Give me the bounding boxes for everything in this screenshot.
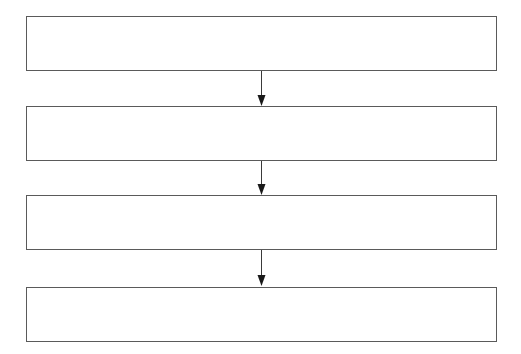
- arrow-down-icon: [256, 71, 267, 107]
- flow-box-step-4: [26, 287, 497, 342]
- flow-box-step-1: [26, 16, 497, 71]
- flow-box-step-3: [26, 195, 497, 250]
- arrow-down-icon: [256, 161, 267, 196]
- arrow-down-icon: [256, 250, 267, 287]
- flow-box-step-2: [26, 106, 497, 161]
